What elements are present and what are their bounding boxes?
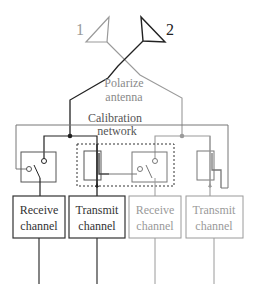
- polarize-label-line2: antenna: [105, 90, 143, 104]
- transmit-coupler-1-icon: [84, 144, 137, 196]
- receive-channel-1: Receive channel: [13, 196, 65, 238]
- transmit-coupler-2-icon: [197, 136, 221, 196]
- transmit-channel-2-line1: Transmit: [193, 203, 237, 217]
- polarize-label-line1: Polarize: [104, 76, 143, 90]
- receive-channel-2: Receive channel: [129, 196, 181, 238]
- receive-channel-1-line1: Receive: [20, 203, 59, 217]
- receive-channel-2-line1: Receive: [136, 203, 175, 217]
- antenna-2-label: 2: [166, 21, 174, 38]
- transmit-channel-1-line1: Transmit: [76, 203, 120, 217]
- antenna-1-icon: [86, 17, 109, 42]
- receive-channel-1-line2: channel: [20, 219, 58, 233]
- calibration-label-line1: Calibration: [88, 111, 142, 125]
- transmit-channel-1-line2: channel: [78, 219, 116, 233]
- transmit-channel-2-line2: channel: [195, 219, 233, 233]
- transmit-channel-2: Transmit channel: [186, 196, 243, 238]
- receive-switch-1-icon: [21, 152, 56, 196]
- transmit-channel-1: Transmit channel: [69, 196, 125, 238]
- receive-channel-2-line2: channel: [136, 219, 174, 233]
- antenna-1-label: 1: [76, 21, 84, 38]
- calibration-label-line2: network: [97, 124, 136, 138]
- diagram-canvas: 1 2 Polarize antenna Calibration network: [0, 0, 259, 296]
- antenna-2-icon: [141, 17, 165, 42]
- receive-switch-2-icon: [132, 152, 167, 196]
